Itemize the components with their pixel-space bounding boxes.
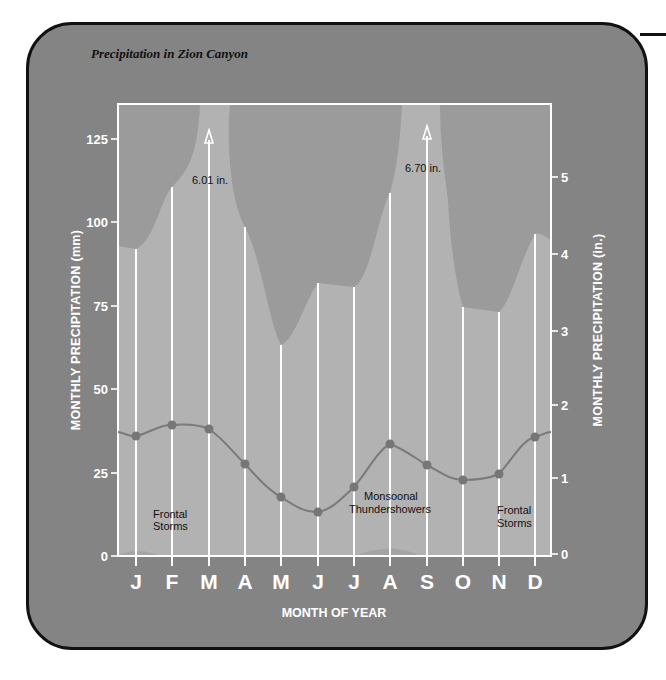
svg-text:O: O [455, 570, 471, 593]
svg-text:J: J [312, 570, 324, 593]
left-ticks [111, 139, 118, 556]
svg-text:J: J [130, 570, 142, 593]
svg-text:0: 0 [561, 547, 568, 562]
svg-text:125: 125 [86, 132, 108, 147]
svg-text:100: 100 [86, 215, 108, 230]
right-ticks [551, 177, 558, 554]
svg-text:Thundershowers: Thundershowers [349, 503, 431, 515]
annotation-monsoon: Monsoonal [364, 490, 418, 502]
annotation-frontal-1: Frontal [153, 508, 187, 520]
y-axis-label-right: MONTHLY PRECIPITATION (in.) [591, 233, 605, 426]
svg-text:2: 2 [561, 398, 568, 413]
x-axis-label: MONTH OF YEAR [282, 606, 387, 620]
svg-text:N: N [491, 570, 506, 593]
svg-text:F: F [166, 570, 179, 593]
annotation-sept: 6.70 in. [405, 162, 441, 174]
annotation-march: 6.01 in. [192, 174, 228, 186]
svg-text:75: 75 [94, 299, 108, 314]
annotation-frontal-2: Frontal [497, 504, 531, 516]
svg-text:4: 4 [561, 247, 569, 262]
month-labels: J F M A M J J A S O N D [130, 570, 542, 593]
svg-text:M: M [200, 570, 218, 593]
svg-text:J: J [348, 570, 360, 593]
svg-text:5: 5 [561, 170, 568, 185]
svg-text:M: M [272, 570, 290, 593]
svg-text:S: S [420, 570, 434, 593]
svg-text:Storms: Storms [497, 517, 532, 529]
svg-text:50: 50 [94, 382, 108, 397]
svg-text:25: 25 [94, 466, 108, 481]
chart-svg: 0 25 50 75 100 125 0 1 2 3 4 5 J F M A M… [0, 0, 666, 680]
svg-text:A: A [382, 570, 397, 593]
svg-text:Storms: Storms [153, 520, 188, 532]
svg-text:1: 1 [561, 471, 568, 486]
month-ticks [136, 556, 535, 566]
right-tick-labels: 0 1 2 3 4 5 [561, 170, 569, 562]
y-axis-label-left: MONTHLY PRECIPITATION (mm) [69, 230, 83, 430]
svg-text:A: A [237, 570, 252, 593]
left-tick-labels: 0 25 50 75 100 125 [86, 132, 108, 564]
svg-text:0: 0 [101, 549, 108, 564]
svg-text:3: 3 [561, 324, 568, 339]
svg-text:D: D [527, 570, 542, 593]
